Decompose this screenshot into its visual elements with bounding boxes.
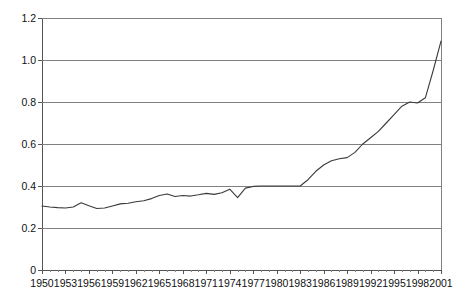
x-tick-mark: [277, 270, 278, 274]
x-minor-tick-mark: [378, 270, 379, 272]
x-tick-mark: [206, 270, 207, 274]
x-minor-tick-mark: [245, 270, 246, 272]
x-minor-tick-mark: [433, 270, 434, 272]
x-tick-mark: [112, 270, 113, 274]
x-tick-mark: [42, 270, 43, 274]
x-tick-label: 1962: [124, 278, 147, 289]
line-chart: 00.20.40.60.81.01.2 19501953195619591962…: [0, 0, 456, 302]
y-tick-mark: [38, 144, 42, 145]
x-tick-mark: [394, 270, 395, 274]
data-series-line: [42, 18, 441, 270]
x-tick-label: 1986: [312, 278, 335, 289]
x-tick-mark: [253, 270, 254, 274]
y-tick-mark: [38, 228, 42, 229]
x-minor-tick-mark: [261, 270, 262, 272]
x-minor-tick-mark: [81, 270, 82, 272]
x-minor-tick-mark: [191, 270, 192, 272]
plot-right-border: [441, 18, 442, 271]
x-minor-tick-mark: [120, 270, 121, 272]
x-minor-tick-mark: [214, 270, 215, 272]
x-tick-label: 1953: [54, 278, 77, 289]
x-tick-label: 1965: [148, 278, 171, 289]
x-minor-tick-mark: [363, 270, 364, 272]
y-axis: 00.20.40.60.81.01.2: [0, 0, 36, 302]
x-tick-mark: [347, 270, 348, 274]
x-minor-tick-mark: [222, 270, 223, 272]
x-tick-label: 1950: [30, 278, 53, 289]
x-tick-label: 1983: [288, 278, 311, 289]
series-1-polyline: [42, 41, 441, 208]
x-tick-label: 1956: [77, 278, 100, 289]
x-tick-label: 1959: [101, 278, 124, 289]
y-tick-mark: [38, 186, 42, 187]
x-tick-label: 1998: [406, 278, 429, 289]
y-tick-mark: [38, 18, 42, 19]
x-tick-mark: [136, 270, 137, 274]
x-minor-tick-mark: [144, 270, 145, 272]
x-tick-label: 1989: [335, 278, 358, 289]
y-tick-mark: [38, 102, 42, 103]
y-tick-label: 0.8: [2, 97, 36, 108]
x-minor-tick-mark: [331, 270, 332, 272]
x-tick-mark: [371, 270, 372, 274]
x-minor-tick-mark: [402, 270, 403, 272]
x-tick-mark: [324, 270, 325, 274]
y-tick-mark: [38, 270, 42, 271]
x-minor-tick-mark: [410, 270, 411, 272]
x-minor-tick-mark: [50, 270, 51, 272]
x-tick-label: 1992: [359, 278, 382, 289]
x-tick-mark: [183, 270, 184, 274]
x-minor-tick-mark: [58, 270, 59, 272]
x-minor-tick-mark: [386, 270, 387, 272]
x-tick-label: 1974: [218, 278, 241, 289]
x-tick-label: 1977: [242, 278, 265, 289]
x-minor-tick-mark: [269, 270, 270, 272]
y-tick-label: 0.2: [2, 223, 36, 234]
x-minor-tick-mark: [355, 270, 356, 272]
x-tick-mark: [65, 270, 66, 274]
x-minor-tick-mark: [128, 270, 129, 272]
x-minor-tick-mark: [339, 270, 340, 272]
x-tick-label: 1968: [171, 278, 194, 289]
x-axis-line: [42, 270, 442, 271]
y-tick-label: 0: [2, 265, 36, 276]
x-minor-tick-mark: [167, 270, 168, 272]
x-tick-label: 2001: [429, 278, 452, 289]
x-tick-label: 1995: [382, 278, 405, 289]
y-tick-label: 0.6: [2, 139, 36, 150]
x-tick-label: 1971: [195, 278, 218, 289]
y-tick-label: 1.2: [2, 13, 36, 24]
x-tick-label: 1980: [265, 278, 288, 289]
x-minor-tick-mark: [425, 270, 426, 272]
x-tick-mark: [159, 270, 160, 274]
x-minor-tick-mark: [152, 270, 153, 272]
x-tick-mark: [89, 270, 90, 274]
y-tick-mark: [38, 60, 42, 61]
x-minor-tick-mark: [105, 270, 106, 272]
x-tick-mark: [441, 270, 442, 274]
x-minor-tick-mark: [292, 270, 293, 272]
x-minor-tick-mark: [73, 270, 74, 272]
x-minor-tick-mark: [175, 270, 176, 272]
y-tick-label: 0.4: [2, 181, 36, 192]
x-minor-tick-mark: [316, 270, 317, 272]
x-minor-tick-mark: [238, 270, 239, 272]
x-minor-tick-mark: [285, 270, 286, 272]
x-minor-tick-mark: [97, 270, 98, 272]
x-tick-mark: [418, 270, 419, 274]
x-tick-mark: [300, 270, 301, 274]
x-minor-tick-mark: [308, 270, 309, 272]
x-minor-tick-mark: [198, 270, 199, 272]
y-tick-label: 1.0: [2, 55, 36, 66]
x-tick-mark: [230, 270, 231, 274]
